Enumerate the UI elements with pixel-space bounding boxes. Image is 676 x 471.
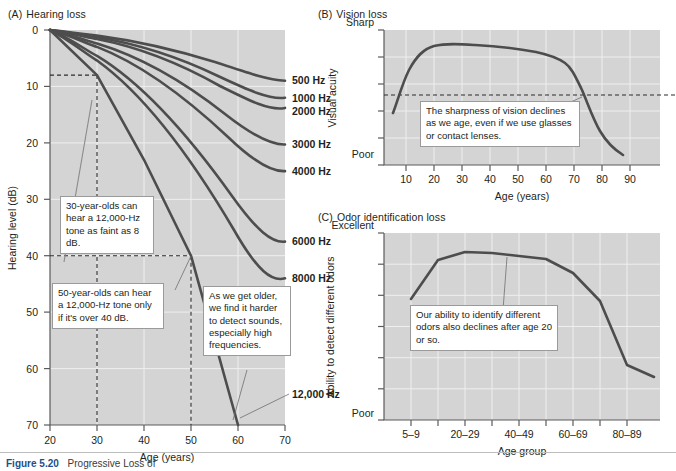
panel-a-title-text: Hearing loss [26,8,86,20]
figure-caption-text: Progressive Loss of [68,458,156,469]
panel-a-callout-1: 30-year-olds can hear a 12,000-Hz tone a… [60,196,154,254]
panel-a-callout-2: 50-year-olds can hear a 12,000-Hz tone o… [52,283,164,329]
panel-b-y-ticks [378,30,384,165]
panel-c-y-ticks [378,233,384,420]
panel-a-xtick-1: 30 [91,434,103,446]
panel-a-xtick-3: 50 [185,434,197,446]
panel-c-callout-1: Our ability to identify different odors … [410,305,558,351]
panel-c-xtick-4: 80–89 [612,428,641,440]
panel-c-y-axis-title: Ability to detect different odors [324,256,336,397]
panel-b-y-axis-title: Visual acuity [326,68,338,128]
panel-a-callout-3: As we get older, we find it harder to de… [203,286,291,356]
panel-c-ybottom-label: Poor [352,407,375,419]
panel-a-y-tick-labels: 0 10 20 30 40 50 60 70 [26,24,38,431]
panel-a-xtick-0: 20 [44,434,56,446]
panel-a-ytick-1: 10 [26,80,38,92]
panel-b-xtick-1: 20 [428,173,440,185]
caption-divider [0,452,676,453]
panel-a-ytick-6: 60 [26,363,38,375]
panel-b-x-tick-labels: 10 20 30 40 50 60 70 80 90 [400,173,636,185]
panel-a-ytick-2: 20 [26,137,38,149]
panel-b-title-text: Vision loss [336,8,387,20]
panel-b-xtick-2: 30 [456,173,468,185]
panel-c-xtick-3: 60–69 [558,428,587,440]
panel-b-xtick-7: 80 [596,173,608,185]
figure-caption-number: Figure 5.20 [6,458,59,469]
panel-a-ytick-5: 50 [26,306,38,318]
panel-b-xtick-5: 60 [540,173,552,185]
panel-b-xtick-0: 10 [400,173,412,185]
panel-a-title: (A)Hearing loss [8,8,86,20]
panel-b-xtick-4: 50 [512,173,524,185]
panel-a-ytick-0: 0 [32,24,38,36]
panel-c-title: (C)Odor identification loss [318,211,446,223]
panel-a-xtick-2: 40 [138,434,150,446]
panel-c-xtick-0: 5–9 [402,428,420,440]
panel-c-label: (C) [318,211,333,223]
figure-root: (A)Hearing loss [0,0,676,471]
panel-b-ybottom-label: Poor [352,148,375,160]
panel-a-y-ticks [44,30,50,425]
figure-caption: Figure 5.20 Progressive Loss of [6,458,155,469]
panel-hearing-loss: (A)Hearing loss [0,0,350,450]
panel-odor-loss: (C)Odor identification loss [310,205,676,471]
panel-b-xtick-8: 90 [624,173,636,185]
panel-b-title: (B)Vision loss [318,8,387,20]
panel-a-ytick-3: 30 [26,193,38,205]
panel-b-xtick-6: 70 [568,173,580,185]
panel-a-label: (A) [8,8,22,20]
panel-b-x-ticks [406,165,630,171]
panel-a-ytick-4: 40 [26,250,38,262]
panel-b-x-axis-title: Age (years) [495,190,549,202]
panel-c-x-axis-title: Age group [498,445,547,457]
panel-b-xtick-3: 40 [484,173,496,185]
panel-a-svg: 0 10 20 30 40 50 60 70 20 30 40 50 60 70… [0,0,350,450]
panel-a-ytick-7: 70 [26,419,38,431]
panel-c-xtick-1: 20–29 [450,428,479,440]
panel-b-callout-1: The sharpness of vision declines as we a… [420,101,580,147]
panel-c-x-ticks [411,420,627,426]
panel-b-label: (B) [318,8,332,20]
panel-a-xtick-5: 70 [279,434,291,446]
panel-a-xtick-4: 60 [232,434,244,446]
panel-a-x-ticks [50,425,285,431]
panel-a-x-tick-labels: 20 30 40 50 60 70 [44,434,291,446]
panel-vision-loss: (B)Vision loss [310,0,676,205]
panel-c-x-tick-labels: 5–9 20–29 40–49 60–69 80–89 [402,428,642,440]
panel-c-xtick-2: 40–49 [504,428,533,440]
panel-c-title-text: Odor identification loss [337,211,446,223]
panel-a-y-axis-title: Hearing level (dB) [6,186,18,270]
